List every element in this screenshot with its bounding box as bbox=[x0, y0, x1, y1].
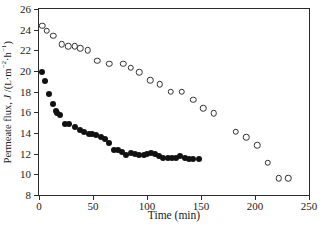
y-axis-tick-label: 22 bbox=[20, 45, 31, 56]
data-point-open-circles bbox=[106, 61, 113, 68]
data-point-open-circles bbox=[276, 175, 283, 182]
data-point-open-circles bbox=[77, 45, 84, 52]
data-point-open-circles bbox=[285, 175, 292, 182]
data-point-open-circles bbox=[84, 47, 91, 54]
data-point-open-circles bbox=[50, 33, 57, 40]
y-axis-tick bbox=[34, 112, 39, 113]
data-point-open-circles bbox=[178, 88, 185, 95]
data-point-open-circles bbox=[168, 88, 175, 95]
data-point-open-circles bbox=[94, 57, 101, 64]
data-point-filled-circles bbox=[106, 140, 112, 146]
y-axis-tick-label: 12 bbox=[20, 148, 31, 159]
y-axis-tick bbox=[34, 71, 39, 72]
data-point-open-circles bbox=[211, 110, 218, 117]
y-axis-tick-label: 26 bbox=[20, 4, 31, 15]
data-point-open-circles bbox=[43, 27, 50, 34]
data-point-open-circles bbox=[200, 105, 207, 112]
x-axis-title: Time (min) bbox=[38, 210, 310, 222]
y-axis-title: Permeate flux, J /(L·m−2·h−1) bbox=[0, 8, 16, 196]
y-axis-tick bbox=[34, 174, 39, 175]
data-point-open-circles bbox=[190, 97, 197, 104]
y-axis-tick-label: 18 bbox=[20, 86, 31, 97]
y-axis-title-text: Permeate flux, J /(L·m−2·h−1) bbox=[3, 41, 14, 163]
y-axis-tick bbox=[34, 9, 39, 10]
plot-area: 8101214161820222426050100150200250 bbox=[38, 8, 310, 196]
data-point-filled-circles bbox=[39, 69, 45, 75]
y-axis-tick-label: 8 bbox=[26, 190, 32, 201]
data-point-open-circles bbox=[243, 134, 250, 141]
data-points-layer bbox=[39, 9, 309, 195]
data-point-filled-circles bbox=[196, 156, 202, 162]
data-point-filled-circles bbox=[57, 112, 63, 118]
data-point-open-circles bbox=[265, 160, 272, 167]
data-point-open-circles bbox=[254, 142, 261, 149]
y-axis-tick-label: 16 bbox=[20, 107, 31, 118]
data-point-open-circles bbox=[136, 69, 143, 76]
y-axis-tick bbox=[34, 92, 39, 93]
data-point-filled-circles bbox=[46, 91, 52, 97]
y-axis-tick-label: 14 bbox=[20, 128, 31, 139]
data-point-open-circles bbox=[128, 65, 135, 72]
data-point-filled-circles bbox=[42, 78, 48, 84]
y-axis-tick-label: 20 bbox=[20, 66, 31, 77]
data-point-open-circles bbox=[157, 81, 164, 88]
data-point-filled-circles bbox=[50, 101, 56, 107]
chart-figure: Permeate flux, J /(L·m−2·h−1) 8101214161… bbox=[0, 0, 323, 229]
y-axis-tick-label: 10 bbox=[20, 169, 31, 180]
y-axis-tick-label: 24 bbox=[20, 24, 31, 35]
y-axis-tick bbox=[34, 50, 39, 51]
data-point-open-circles bbox=[232, 129, 239, 136]
y-axis-tick bbox=[34, 30, 39, 31]
y-axis-tick bbox=[34, 154, 39, 155]
y-axis-tick bbox=[34, 133, 39, 134]
data-point-open-circles bbox=[147, 77, 154, 84]
data-point-open-circles bbox=[120, 61, 127, 68]
